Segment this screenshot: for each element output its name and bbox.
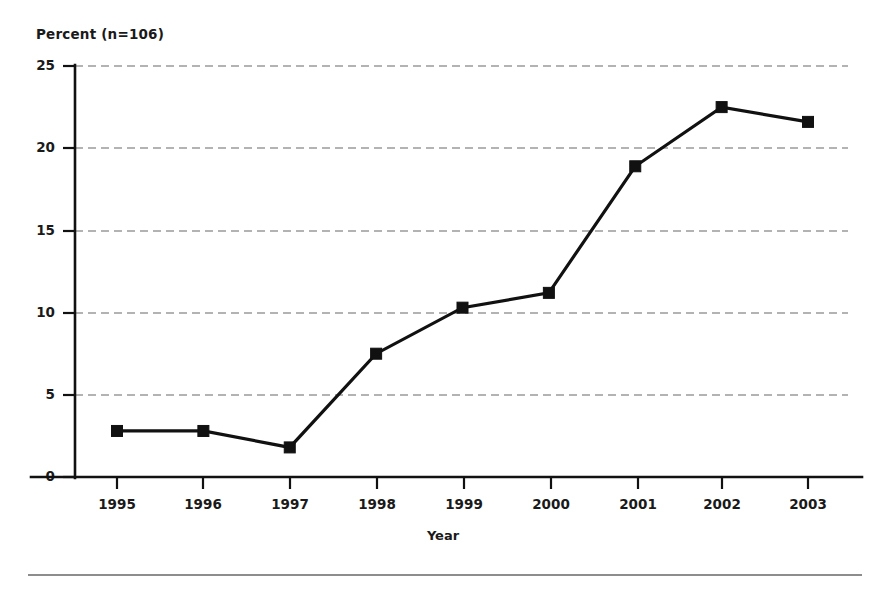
data-point-1998 xyxy=(371,348,382,359)
data-point-2002 xyxy=(716,102,727,113)
x-axis-group: 1995 1996 1997 1998 1999 2000 2001 2002 … xyxy=(31,477,862,512)
y-tick-label-15: 15 xyxy=(36,222,55,238)
gridlines-group xyxy=(75,66,848,395)
data-point-2003 xyxy=(803,116,814,127)
y-axis-group: 25 20 15 10 5 0 xyxy=(36,57,75,484)
x-tick-label-1999: 1999 xyxy=(445,496,483,512)
x-tick-label-1998: 1998 xyxy=(358,496,396,512)
series-markers-percent xyxy=(112,102,814,453)
x-tick-label-1996: 1996 xyxy=(184,496,222,512)
x-tick-label-2000: 2000 xyxy=(532,496,570,512)
data-point-2000 xyxy=(543,287,554,298)
x-axis-title: Year xyxy=(0,528,886,543)
data-point-1997 xyxy=(284,442,295,453)
x-tick-label-1995: 1995 xyxy=(98,496,136,512)
line-chart-plot: 25 20 15 10 5 0 1995 1996 1997 1998 1999… xyxy=(0,0,886,520)
chart-figure: Percent (n=106) 25 20 15 10 5 0 xyxy=(0,0,886,593)
y-tick-label-5: 5 xyxy=(46,386,55,402)
series-group xyxy=(112,102,814,453)
y-tick-label-25: 25 xyxy=(36,57,55,73)
y-tick-label-10: 10 xyxy=(36,304,55,320)
x-tick-label-2003: 2003 xyxy=(789,496,827,512)
data-point-1995 xyxy=(112,425,123,436)
x-tick-label-2001: 2001 xyxy=(619,496,657,512)
y-tick-label-20: 20 xyxy=(36,139,55,155)
data-point-2001 xyxy=(630,161,641,172)
x-tick-label-2002: 2002 xyxy=(703,496,741,512)
series-line-percent xyxy=(117,107,808,447)
data-point-1999 xyxy=(457,302,468,313)
footer-divider xyxy=(28,574,862,576)
x-tick-label-1997: 1997 xyxy=(271,496,309,512)
data-point-1996 xyxy=(198,425,209,436)
